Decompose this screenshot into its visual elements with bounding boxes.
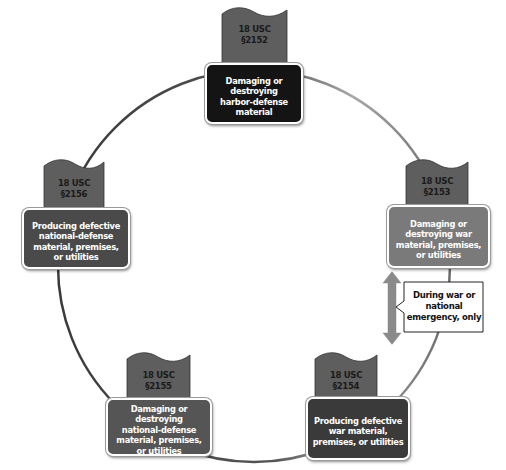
- node-box-2155: Damaging or destroying national-defense …: [106, 398, 212, 456]
- callout-label: During war or national emergency, only: [406, 290, 482, 323]
- code-label-2156: 18 USC §2156: [44, 178, 104, 200]
- code-line: 18 USC: [406, 176, 468, 187]
- code-line: 18 USC: [315, 370, 377, 381]
- code-line: §2156: [44, 189, 104, 200]
- node-box-2154: Producing defective war material, premis…: [306, 397, 410, 460]
- node-label: Damaging or destroying harbor-defense ma…: [220, 76, 288, 118]
- code-line: §2155: [127, 381, 190, 392]
- code-label-2153: 18 USC §2153: [406, 176, 468, 198]
- code-label-2154: 18 USC §2154: [315, 370, 377, 392]
- node-box-2156: Producing defective national-defense mat…: [22, 208, 130, 269]
- node-label: Producing defective war material, premis…: [313, 416, 404, 448]
- code-line: §2154: [315, 381, 377, 392]
- code-line: 18 USC: [127, 370, 190, 381]
- code-line: §2152: [222, 35, 287, 46]
- code-label-2155: 18 USC §2155: [127, 370, 190, 392]
- code-line: §2153: [406, 187, 468, 198]
- node-label: Producing defective national-defense mat…: [32, 221, 120, 263]
- node-label: Damaging or destroying war material, pre…: [396, 219, 481, 261]
- code-line: 18 USC: [222, 24, 287, 35]
- node-label: Damaging or destroying national-defense …: [111, 404, 207, 457]
- node-box-2152: Damaging or destroying harbor-defense ma…: [205, 63, 303, 124]
- node-box-2153: Damaging or destroying war material, pre…: [387, 205, 490, 268]
- code-line: 18 USC: [44, 178, 104, 189]
- code-label-2152: 18 USC §2152: [222, 24, 287, 46]
